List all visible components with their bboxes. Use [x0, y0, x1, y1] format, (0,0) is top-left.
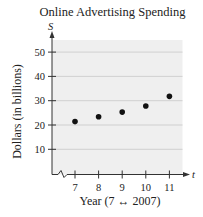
y-axis-arrow-icon: [50, 31, 55, 38]
x-axis-arrow-icon: [183, 172, 190, 177]
y-tick-label: 10: [35, 144, 46, 155]
x-axis-variable: t: [192, 169, 196, 180]
x-tick-label: 7: [72, 182, 77, 193]
x-tick-label: 10: [141, 182, 152, 193]
x-tick-label: 9: [120, 182, 125, 193]
data-point: [72, 119, 78, 125]
chart-plot: 1020304050St7891011: [0, 0, 203, 217]
y-tick-label: 20: [35, 120, 46, 131]
y-tick-label: 40: [35, 71, 46, 82]
data-point: [96, 114, 102, 120]
x-tick-label: 11: [164, 182, 174, 193]
data-point: [143, 103, 149, 109]
y-tick-label: 30: [35, 95, 46, 106]
y-tick-label: 50: [35, 47, 46, 58]
x-tick-label: 8: [96, 182, 101, 193]
y-axis-variable: S: [48, 21, 54, 32]
data-point: [119, 109, 125, 115]
data-point: [167, 94, 173, 100]
plot-area: [52, 40, 183, 175]
